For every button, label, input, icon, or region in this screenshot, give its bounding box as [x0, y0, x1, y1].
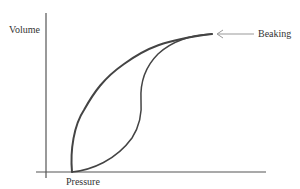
y-axis-label: Volume: [9, 25, 40, 35]
pressure-volume-diagram: [0, 0, 300, 189]
beaking-label: Beaking: [258, 29, 291, 39]
x-axis-label: Pressure: [66, 177, 100, 187]
lower-curve: [72, 34, 212, 172]
